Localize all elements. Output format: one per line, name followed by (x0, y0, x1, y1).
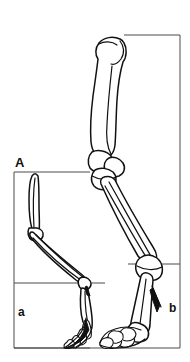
box-label-a: a (18, 305, 25, 319)
large-fibula-bone (109, 182, 152, 258)
large-tibia-inner-line (105, 186, 148, 260)
small-tarsus-joint (78, 277, 91, 290)
anatomical-figure: A a b (0, 0, 190, 362)
large-limb-skeleton (88, 37, 162, 348)
box-label-b: b (169, 301, 176, 315)
small-limb-skeleton (28, 174, 92, 349)
panel-label-A: A (15, 155, 25, 170)
small-phalanges-group (64, 318, 92, 348)
small-tibia-bone (30, 232, 86, 283)
limb-comparison-drawing: A a b (0, 0, 190, 362)
